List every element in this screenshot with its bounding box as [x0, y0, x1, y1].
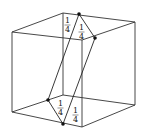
fraction-labels: 1 4 1 4 1 4 1 4 [58, 16, 85, 124]
svg-text:4: 4 [58, 108, 63, 117]
cube-diagram: 1 4 1 4 1 4 1 4 [0, 0, 143, 134]
svg-text:4: 4 [73, 115, 78, 124]
cross-section-plane [48, 14, 95, 124]
svg-text:1: 1 [58, 99, 63, 108]
svg-text:4: 4 [79, 32, 84, 41]
svg-text:1: 1 [79, 23, 84, 32]
svg-text:1: 1 [73, 106, 78, 115]
svg-text:1: 1 [65, 16, 70, 25]
svg-text:4: 4 [65, 25, 70, 34]
